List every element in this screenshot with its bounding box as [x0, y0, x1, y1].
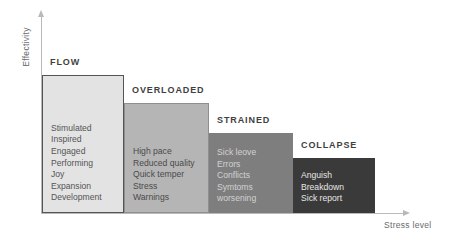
list-item: worsening: [217, 193, 256, 205]
list-item: Anguish: [301, 170, 344, 182]
stage-bar-strained: Sick leove Errors Conflicts Symtoms wors…: [209, 133, 293, 213]
list-item: Quick temper: [133, 169, 195, 181]
stage-label-strained: STRAINED: [217, 115, 270, 125]
stage-item-list-overloaded: High pace Reduced quality Quick temper S…: [133, 146, 195, 204]
list-item: Sick report: [301, 193, 344, 205]
list-item: High pace: [133, 146, 195, 158]
list-item: Reduced quality: [133, 158, 195, 170]
stage-item-list-collapse: Anguish Breakdown Sick report: [301, 170, 344, 205]
stress-effectivity-chart: Effectivity Stress level FLOW Stimulated…: [0, 0, 464, 239]
list-item: Breakdown: [301, 182, 344, 194]
list-item: Conflicts: [217, 170, 256, 182]
list-item: Inspired: [51, 134, 102, 146]
list-item: Performing: [51, 158, 102, 170]
x-axis-line: [41, 213, 405, 214]
stage-bar-collapse: Anguish Breakdown Sick report: [293, 158, 375, 213]
x-axis-arrow-icon: [403, 210, 410, 216]
list-item: Expansion: [51, 181, 102, 193]
stage-item-list-flow: Stimulated Inspired Engaged Performing J…: [51, 123, 102, 204]
list-item: Symtoms: [217, 182, 256, 194]
list-item: Warnings: [133, 192, 195, 204]
stage-bar-flow: Stimulated Inspired Engaged Performing J…: [42, 75, 124, 213]
list-item: Stress: [133, 181, 195, 193]
stage-item-list-strained: Sick leove Errors Conflicts Symtoms wors…: [217, 147, 256, 205]
list-item: Engaged: [51, 146, 102, 158]
x-axis-label: Stress level: [384, 220, 432, 230]
y-axis-arrow-icon: [38, 10, 44, 17]
list-item: Errors: [217, 159, 256, 171]
stage-label-collapse: COLLAPSE: [301, 140, 357, 150]
stage-label-overloaded: OVERLOADED: [132, 85, 205, 95]
list-item: Stimulated: [51, 123, 102, 135]
stage-label-flow: FLOW: [50, 57, 80, 67]
y-axis-label: Effectivity: [21, 9, 31, 85]
list-item: Development: [51, 192, 102, 204]
list-item: Joy: [51, 169, 102, 181]
stage-bar-overloaded: High pace Reduced quality Quick temper S…: [124, 103, 209, 213]
list-item: Sick leove: [217, 147, 256, 159]
